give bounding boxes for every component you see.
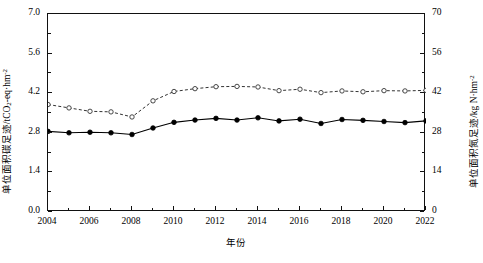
x-axis-tick-minor xyxy=(236,208,237,211)
x-axis-tick-label: 2022 xyxy=(416,217,435,227)
data-point xyxy=(235,118,240,123)
x-axis-tick-label: 2014 xyxy=(248,217,267,227)
x-axis-tick-label: 2008 xyxy=(122,217,141,227)
x-axis-tick-label: 2010 xyxy=(164,217,183,227)
chart-container: 单位面积碳足迹/tCO2-eq·hm-2 单位面积氮足迹/kg N·hm-2 年… xyxy=(0,0,483,263)
x-axis-tick-major xyxy=(383,206,384,210)
x-axis-tick-minor xyxy=(320,208,321,211)
x-axis-tick-minor xyxy=(404,208,405,211)
x-axis-tick-major xyxy=(425,206,426,210)
x-axis-tick-major xyxy=(341,206,342,210)
x-axis-tick-label: 2018 xyxy=(332,217,351,227)
y-axis-left-tick-major xyxy=(48,211,52,212)
x-axis-tick-label: 2016 xyxy=(290,217,309,227)
x-axis-tick-minor xyxy=(194,208,195,211)
data-point xyxy=(172,120,177,125)
y-axis-left-tick-minor xyxy=(48,33,51,34)
data-layer xyxy=(48,14,426,212)
x-axis-tick-minor xyxy=(152,208,153,211)
x-axis-tick-label: 2006 xyxy=(80,217,99,227)
x-axis-tick-major xyxy=(299,206,300,210)
data-point xyxy=(172,89,176,93)
data-point xyxy=(256,116,261,121)
data-point xyxy=(109,131,114,136)
data-point xyxy=(424,88,426,92)
data-point xyxy=(193,86,197,90)
data-point xyxy=(277,119,282,124)
y-axis-right-tick-major xyxy=(420,53,424,54)
data-point xyxy=(67,131,72,136)
data-point xyxy=(340,117,345,122)
data-point xyxy=(361,118,366,123)
data-point xyxy=(298,87,302,91)
data-point xyxy=(424,119,426,124)
data-point xyxy=(361,90,365,94)
y-axis-left-tick-minor xyxy=(48,112,51,113)
y-axis-right-tick-minor xyxy=(422,152,425,153)
data-point xyxy=(235,84,239,88)
y-axis-left-tick-minor xyxy=(48,72,51,73)
x-axis-tick-label: 2004 xyxy=(38,217,57,227)
data-point xyxy=(130,115,134,119)
x-axis-title: 年份 xyxy=(47,235,425,249)
y-axis-right-tick-major xyxy=(420,171,424,172)
data-point xyxy=(319,90,323,94)
y-axis-right-title-text: 单位面积氮足迹/kg N·hm-2 xyxy=(466,75,480,188)
data-point xyxy=(319,121,324,126)
x-axis-tick-label: 2020 xyxy=(374,217,393,227)
y-axis-left-tick-minor xyxy=(48,152,51,153)
data-point xyxy=(88,109,92,113)
y-axis-left-tick-major xyxy=(48,92,52,93)
y-axis-left-tick-label: 7.0 xyxy=(2,8,40,18)
x-axis-tick-major xyxy=(173,206,174,210)
y-axis-right-title: 单位面积氮足迹/kg N·hm-2 xyxy=(466,0,480,263)
y-axis-left-tick-major xyxy=(48,132,52,133)
x-axis-tick-major xyxy=(89,206,90,210)
x-axis-tick-major xyxy=(131,206,132,210)
y-axis-left-tick-label: 4.2 xyxy=(2,87,40,97)
data-point xyxy=(277,88,281,92)
y-axis-left-tick-label: 2.8 xyxy=(2,127,40,137)
data-point xyxy=(403,120,408,125)
y-axis-right-tick-minor xyxy=(422,112,425,113)
data-point xyxy=(88,130,93,135)
data-point xyxy=(67,106,71,110)
plot-area xyxy=(47,13,425,211)
data-point xyxy=(48,102,50,106)
x-axis-tick-minor xyxy=(278,208,279,211)
y-axis-right-tick-label: 70 xyxy=(432,8,456,18)
y-axis-left-tick-major xyxy=(48,13,52,14)
x-axis-tick-major xyxy=(257,206,258,210)
series-line xyxy=(48,86,426,117)
series-carbon xyxy=(48,116,426,137)
data-point xyxy=(109,110,113,114)
y-axis-left-tick-label: 1.4 xyxy=(2,167,40,177)
y-axis-left-tick-major xyxy=(48,171,52,172)
y-axis-right-tick-minor xyxy=(422,191,425,192)
data-point xyxy=(340,89,344,93)
y-axis-right-tick-minor xyxy=(422,72,425,73)
y-axis-left-tick-label: 5.6 xyxy=(2,48,40,58)
y-axis-right-tick-minor xyxy=(422,33,425,34)
y-axis-right-tick-label: 14 xyxy=(432,167,456,177)
y-axis-right-tick-major xyxy=(420,132,424,133)
x-axis-tick-minor xyxy=(68,208,69,211)
data-point xyxy=(151,99,155,103)
data-point xyxy=(382,119,387,124)
data-point xyxy=(382,88,386,92)
data-point xyxy=(298,117,303,122)
data-point xyxy=(214,84,218,88)
y-axis-left-tick-minor xyxy=(48,191,51,192)
data-point xyxy=(403,89,407,93)
x-axis-tick-minor xyxy=(110,208,111,211)
y-axis-right-tick-major xyxy=(420,13,424,14)
data-point xyxy=(214,116,219,121)
y-axis-right-tick-label: 56 xyxy=(432,48,456,58)
y-axis-right-tick-label: 42 xyxy=(432,87,456,97)
x-axis-tick-label: 2012 xyxy=(206,217,225,227)
y-axis-right-tick-major xyxy=(420,211,424,212)
y-axis-left-tick-label: 0.0 xyxy=(2,206,40,216)
y-axis-left-tick-major xyxy=(48,53,52,54)
data-point xyxy=(151,126,156,131)
y-axis-right-tick-major xyxy=(420,92,424,93)
